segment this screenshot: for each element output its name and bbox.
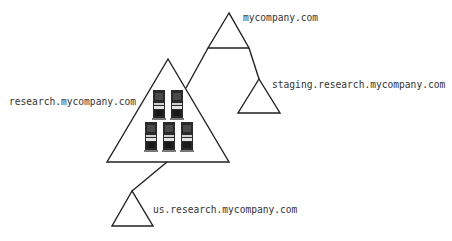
us-domain-label: us.research.mycompany.com	[153, 204, 297, 215]
edge-research-us	[132, 162, 167, 191]
server-cluster-icon	[144, 90, 194, 152]
server-icon	[152, 90, 166, 120]
edge-root-research	[186, 48, 208, 88]
edge-root-staging	[249, 48, 259, 79]
server-icon	[170, 90, 184, 120]
domain-hierarchy-diagram: mycompany.com research.mycompany.com sta…	[0, 0, 452, 241]
server-icon	[144, 122, 158, 152]
staging-domain-label: staging.research.mycompany.com	[272, 79, 445, 90]
server-icon	[180, 122, 194, 152]
root-domain-label: mycompany.com	[243, 12, 318, 23]
research-domain-label: research.mycompany.com	[9, 96, 136, 107]
server-icon	[162, 122, 176, 152]
us-domain-triangle-icon	[112, 191, 153, 226]
